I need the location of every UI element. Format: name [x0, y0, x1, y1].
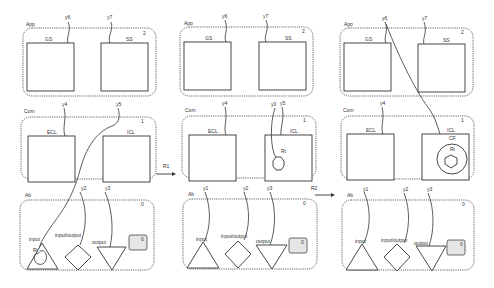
- app-level-number: 2: [143, 30, 146, 36]
- input-label: input: [29, 236, 40, 242]
- input-triangle: [187, 242, 219, 268]
- ab-level-number: 0: [141, 201, 144, 207]
- y3-wire: [270, 192, 275, 245]
- app-layer: App 2 GS SS y6 y7: [23, 14, 156, 96]
- y3-wire: [428, 193, 433, 246]
- gs-label: GS: [365, 36, 373, 42]
- output-triangle: [416, 246, 446, 271]
- app-layer-label: App: [26, 21, 35, 27]
- y1-label: y1: [203, 185, 209, 191]
- y1-wire: [204, 192, 209, 242]
- transition-r2: R2: [311, 185, 335, 197]
- y6-label: y6: [222, 13, 228, 19]
- gs-component: [344, 43, 391, 91]
- state-1: App 2 GS SS y6 y7 Com 1 ECL ICL y4 y5: [20, 14, 156, 270]
- ecl-label: ECL: [366, 127, 376, 133]
- slot-label: 0: [460, 241, 463, 247]
- ab-level-number: 0: [462, 201, 465, 207]
- slot-label: 0: [141, 236, 144, 242]
- com-layer-label: Com: [343, 107, 354, 113]
- y6-wire: [68, 22, 70, 43]
- y7-wire: [109, 22, 112, 43]
- y3-label: y3: [427, 186, 433, 192]
- ecl-component: [189, 135, 236, 181]
- output-label: output: [92, 239, 107, 245]
- ecl-component: [28, 136, 75, 182]
- icl-label: ICL: [447, 127, 455, 133]
- ab-layer-label: Ab: [347, 192, 353, 198]
- ecl-component: [347, 134, 394, 180]
- y5-label: y5: [280, 100, 286, 106]
- gs-label: GS: [205, 35, 213, 41]
- app-level-number: 2: [302, 28, 305, 34]
- com-level-number: 1: [303, 117, 306, 123]
- rt-octagon: [273, 157, 284, 170]
- com-layer-label: Com: [24, 108, 35, 114]
- y5-label: y5: [116, 101, 122, 107]
- y6-label: y6: [382, 15, 388, 21]
- com-level-number: 1: [461, 117, 464, 123]
- gs-component: [27, 43, 74, 91]
- y3-label: y3: [105, 185, 111, 191]
- y7-wire: [265, 20, 267, 42]
- icl-label: ICL: [127, 129, 135, 135]
- transition-r1: R1: [156, 163, 176, 176]
- output-triangle: [256, 245, 287, 269]
- y7-wire: [424, 22, 426, 44]
- app-layer-label: App: [184, 20, 193, 26]
- icl-component: [103, 136, 150, 182]
- ab-layer: Ab 0 input y1 input/output y2 output y3 …: [183, 185, 317, 269]
- y5-wire: [281, 107, 283, 135]
- ecl-label: ECL: [47, 129, 57, 135]
- y4-wire: [225, 107, 226, 135]
- y2-label: y2: [403, 186, 409, 192]
- ss-component: [259, 42, 306, 90]
- input-output-label: input/output: [381, 237, 408, 243]
- input-output-diamond: [384, 244, 410, 271]
- state-3: App 2 GS SS y6 y7 Com 1 ECL ICL y4 CF Rt: [340, 15, 474, 271]
- y7-label: y7: [422, 15, 428, 21]
- slot-label: 0: [301, 239, 304, 245]
- com-layer: Com 1 ECL ICL y4 y5 y0 Rt: [182, 100, 316, 181]
- com-level-number: 1: [141, 118, 144, 124]
- ab-layer-label: Ab: [25, 192, 31, 198]
- input-triangle: [27, 243, 58, 269]
- ss-component: [101, 43, 148, 91]
- ab-layer-label: Ab: [188, 191, 194, 197]
- y6-wire: [225, 20, 226, 42]
- ss-label: SS: [126, 36, 133, 42]
- slot-box: [289, 238, 307, 253]
- app-layer-label: App: [344, 21, 353, 27]
- y2-label: y2: [243, 185, 249, 191]
- r2-arrow-head-icon: [331, 193, 335, 197]
- y2-label: y2: [81, 185, 87, 191]
- rt-label: Rt: [281, 148, 287, 154]
- y4-label: y4: [380, 100, 386, 106]
- gs-component: [184, 42, 231, 90]
- ab-level-number: 0: [303, 200, 306, 206]
- state-2: App 2 GS SS y6 y7 Com 1 ECL ICL y4 y5 y0: [180, 13, 317, 269]
- gs-label: GS: [45, 36, 53, 42]
- input-output-diamond: [65, 245, 91, 270]
- com-layer-label: Com: [185, 107, 196, 113]
- ss-label: SS: [285, 35, 292, 41]
- r2-label: R2: [311, 185, 318, 191]
- app-level-number: 2: [461, 29, 464, 35]
- y7-label: y7: [107, 14, 113, 20]
- output-triangle: [97, 247, 126, 270]
- com-layer: Com 1 ECL ICL y4 CF Rt: [341, 100, 474, 180]
- slot-box: [129, 235, 147, 250]
- y7-label: y7: [263, 13, 269, 19]
- ab-layer: Ab 0 input y1 input/output y2 output y3 …: [342, 186, 474, 271]
- ecl-label: ECL: [208, 128, 218, 134]
- y4-wire: [64, 108, 65, 136]
- ss-component: [418, 44, 465, 92]
- ss-label: SS: [443, 37, 450, 43]
- y3-label: y3: [267, 185, 273, 191]
- rt-label: Rt: [33, 247, 39, 253]
- rt-label: Rt: [450, 146, 456, 152]
- input-output-label: input/output: [221, 233, 248, 239]
- y4-label: y4: [222, 100, 228, 106]
- input-output-diamond: [225, 241, 251, 268]
- y1-wire: [363, 192, 369, 244]
